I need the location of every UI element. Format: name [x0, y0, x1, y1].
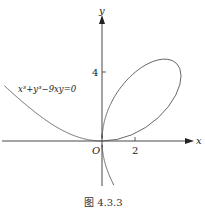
figure-caption: 图 4.3.3 — [84, 197, 123, 208]
equation-label: x³+y³−9xy=0 — [18, 84, 77, 94]
origin-label: O — [92, 145, 100, 156]
x-axis-arrow-icon — [185, 138, 194, 144]
y-tick-label: 4 — [92, 67, 98, 78]
folium-diagram: x y O 2 4 x³+y³−9xy=0 图 4.3.3 — [0, 0, 205, 221]
y-axis-arrow-icon — [99, 15, 105, 24]
y-axis-label: y — [98, 5, 105, 16]
x-tick-label: 2 — [132, 145, 138, 156]
folium-curve — [4, 59, 181, 185]
x-axis-label: x — [196, 135, 202, 146]
